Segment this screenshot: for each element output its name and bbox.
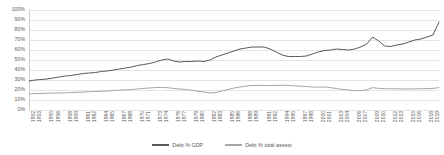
x-axis-tick-label: 1968 <box>128 111 133 122</box>
y-axis-tick-label: 80% <box>15 27 25 32</box>
x-axis-tick-label: 1989 <box>254 111 259 122</box>
line-chart: 0%10%20%30%40%50%60%70%80%90%100% 195219… <box>0 0 444 155</box>
y-axis-tick-label: 20% <box>15 87 25 92</box>
x-axis-tick-label: 1964 <box>104 111 109 122</box>
legend-label: Debt % GDP <box>172 142 203 148</box>
y-axis-tick-label: 100% <box>12 7 25 12</box>
x-axis-tick-label: 1958 <box>68 111 73 122</box>
x-axis-tick-label: 1986 <box>236 111 241 122</box>
x-axis-tick-label: 1983 <box>218 111 223 122</box>
x-axis-tick-label: 1992 <box>273 111 278 122</box>
x-axis-tick-label: 1994 <box>285 111 290 122</box>
y-axis-tick-label: 40% <box>15 67 25 72</box>
x-axis-tick-label: 2004 <box>345 111 350 122</box>
y-axis-tick-label: 30% <box>15 77 25 82</box>
x-axis-tick-label: 1965 <box>110 111 115 122</box>
x-axis-tick-label: 2013 <box>399 111 404 122</box>
x-axis-tick-label: 1998 <box>309 111 314 122</box>
legend-label: Debt % total assets <box>245 142 291 148</box>
series-line <box>29 22 439 81</box>
x-axis-tick-label: 1974 <box>164 111 169 122</box>
x-axis-tick-label: 1956 <box>56 111 61 122</box>
x-axis-tick-label: 1977 <box>182 111 187 122</box>
x-axis-tick-label: 1962 <box>92 111 97 122</box>
legend-color-swatch <box>152 144 169 146</box>
x-axis-tick-label: 1997 <box>303 111 308 122</box>
x-axis-tick-label: 1955 <box>49 111 54 122</box>
y-axis-tick-label: 70% <box>15 37 25 42</box>
x-axis-tick-label: 1971 <box>146 111 151 122</box>
y-axis-tick-label: 90% <box>15 17 25 22</box>
legend-item[interactable]: Debt % GDP <box>152 142 203 148</box>
y-axis-tick-label: 0% <box>18 107 26 112</box>
x-axis-tick-label: 1995 <box>291 111 296 122</box>
x-axis-tick-label: 2007 <box>363 111 368 122</box>
y-axis-tick-label: 10% <box>15 97 25 102</box>
y-axis-labels: 0%10%20%30%40%50%60%70%80%90%100% <box>0 10 27 110</box>
x-axis-tick-label: 1980 <box>200 111 205 122</box>
series-lines <box>29 10 439 110</box>
legend-item[interactable]: Debt % total assets <box>225 142 291 148</box>
x-axis-tick-label: 2001 <box>327 111 332 122</box>
x-axis-tick-label: 2010 <box>381 111 386 122</box>
legend-color-swatch <box>225 144 242 146</box>
x-axis-tick-label: 1991 <box>267 111 272 122</box>
x-axis-tick-label: 1953 <box>37 111 42 122</box>
x-axis-tick-label: 2016 <box>417 111 422 122</box>
x-axis-labels: 1952195319551956195819591961196219641965… <box>29 111 439 141</box>
plot-area <box>29 10 439 110</box>
x-axis-tick-label: 1961 <box>86 111 91 122</box>
series-line <box>29 85 439 94</box>
x-axis-tick-label: 1959 <box>74 111 79 122</box>
x-axis-tick-label: 2019 <box>435 111 440 122</box>
chart-legend: Debt % GDPDebt % total assets <box>0 139 444 151</box>
y-axis-tick-label: 50% <box>15 57 25 62</box>
y-axis-tick-label: 60% <box>15 47 25 52</box>
